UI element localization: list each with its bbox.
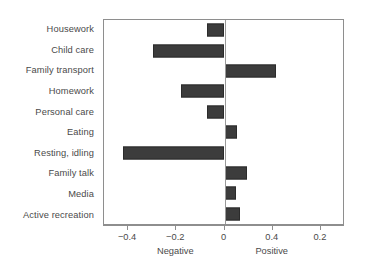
y-axis-label: Housework — [0, 19, 99, 40]
y-axis-label: Resting, idling — [0, 143, 99, 164]
y-axis-label: Homework — [0, 81, 99, 102]
axis-direction-label: Positive — [255, 246, 288, 256]
zero-reference-line — [225, 20, 226, 224]
bar-row — [104, 40, 343, 60]
x-axis-tick — [127, 225, 128, 230]
bar-row — [104, 163, 343, 183]
bar-row — [104, 183, 343, 203]
bar — [225, 65, 277, 78]
bar — [207, 24, 225, 37]
bar — [181, 85, 224, 98]
y-axis-label: Family talk — [0, 163, 99, 184]
x-axis-tick-label: −0.4 — [118, 232, 136, 242]
axis-direction-label: Negative — [157, 246, 194, 256]
bar — [123, 146, 224, 159]
bar — [153, 44, 224, 57]
bar-row — [104, 20, 343, 40]
x-axis-tick-label: 0 — [221, 232, 226, 242]
y-axis-label: Family transport — [0, 60, 99, 81]
bar — [225, 126, 237, 139]
bar-row — [104, 81, 343, 101]
bar-row — [104, 142, 343, 162]
x-axis-tick — [320, 225, 321, 230]
bar — [225, 207, 241, 220]
x-axis-tick — [224, 225, 225, 230]
x-axis-tick — [272, 225, 273, 230]
x-axis-tick-label: −0.2 — [166, 232, 184, 242]
bar-row — [104, 122, 343, 142]
bar — [225, 167, 248, 180]
bar-row — [104, 204, 343, 224]
bars-container — [104, 20, 343, 224]
bar — [207, 105, 224, 118]
y-axis-label: Media — [0, 184, 99, 205]
x-axis-tick — [175, 225, 176, 230]
y-axis-label: Child care — [0, 40, 99, 61]
bar-chart: HouseworkChild careFamily transportHomew… — [0, 0, 366, 273]
x-axis-tick-label: 0.2 — [313, 232, 326, 242]
y-axis-label: Eating — [0, 122, 99, 143]
plot-area — [103, 19, 344, 225]
x-axis-tick-label: 0.4 — [265, 232, 278, 242]
y-axis-label: Active recreation — [0, 204, 99, 225]
y-axis-label: Personal care — [0, 101, 99, 122]
bar-row — [104, 61, 343, 81]
bar-row — [104, 102, 343, 122]
y-axis-category-labels: HouseworkChild careFamily transportHomew… — [0, 19, 99, 225]
bar — [225, 187, 237, 200]
